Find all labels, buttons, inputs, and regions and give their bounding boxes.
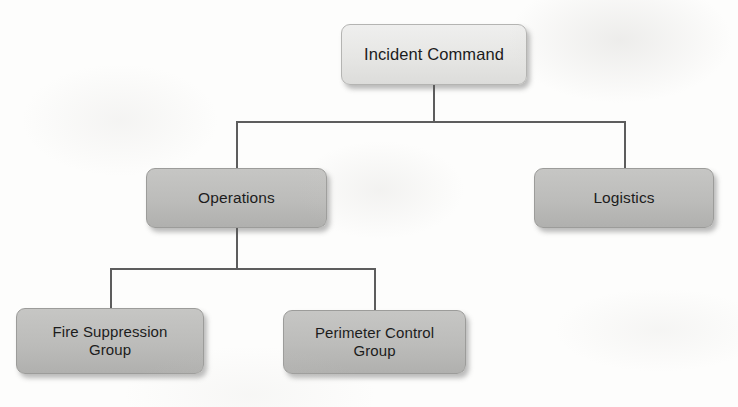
node-label-fire-suppression-group: Fire Suppression Group: [53, 323, 168, 360]
connector-command-stem: [433, 85, 435, 123]
node-label-operations: Operations: [198, 189, 275, 208]
connector-drop-to-perimeter-control: [374, 268, 376, 312]
node-perimeter-control-group[interactable]: Perimeter Control Group: [283, 310, 466, 374]
connector-operations-stem: [236, 228, 238, 270]
node-incident-command[interactable]: Incident Command: [341, 24, 527, 85]
node-operations[interactable]: Operations: [146, 168, 327, 228]
node-label-logistics: Logistics: [593, 189, 654, 208]
org-chart-diagram: Incident Command Operations Logistics Fi…: [0, 0, 738, 407]
connector-command-bus: [236, 121, 626, 123]
connector-drop-to-fire-suppression: [110, 268, 112, 310]
connector-operations-bus: [110, 268, 376, 270]
connector-drop-to-logistics: [624, 121, 626, 169]
node-label-perimeter-control-group: Perimeter Control Group: [315, 324, 434, 361]
connector-drop-to-operations: [236, 121, 238, 169]
node-label-incident-command: Incident Command: [364, 44, 504, 64]
node-fire-suppression-group[interactable]: Fire Suppression Group: [16, 308, 204, 374]
node-logistics[interactable]: Logistics: [534, 168, 714, 228]
